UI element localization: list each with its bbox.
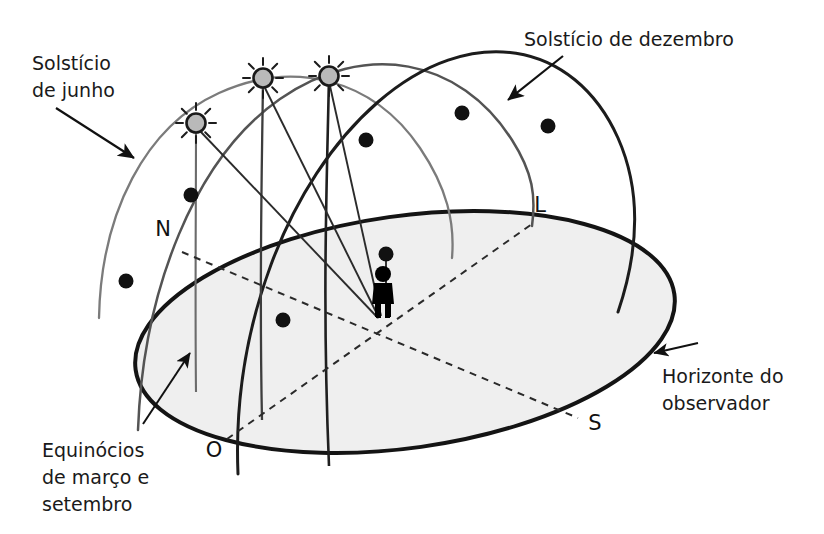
label-horizon: Horizonte do observador xyxy=(662,365,784,414)
marker-dot xyxy=(276,313,291,328)
marker-dot xyxy=(184,188,199,203)
observer-head xyxy=(375,266,391,282)
label-horizon-line1: Horizonte do xyxy=(662,365,784,387)
marker-dot xyxy=(119,274,134,289)
label-solstice-december: Solstício de dezembro xyxy=(524,28,734,50)
sun-equinox-group xyxy=(243,58,283,98)
cardinal-label-west: O xyxy=(206,438,223,462)
label-solstice-june-line2: de junho xyxy=(32,79,115,101)
marker-dot xyxy=(455,106,470,121)
sun-june-group xyxy=(176,103,216,143)
label-equinoxes-line1: Equinócios xyxy=(42,439,144,461)
diagram-canvas: N L O S Solstício de junho Solstício de … xyxy=(0,0,824,534)
label-equinoxes-line3: setembro xyxy=(42,493,132,515)
observer-left-leg xyxy=(376,304,381,318)
label-solstice-june: Solstício de junho xyxy=(32,52,115,101)
label-solstice-june-line1: Solstício xyxy=(32,52,111,74)
sun-icon xyxy=(176,103,216,143)
marker-dot xyxy=(379,247,394,262)
cardinal-label-east: L xyxy=(534,193,546,217)
label-solstice-december-line1: Solstício de dezembro xyxy=(524,28,734,50)
label-equinoxes-line2: de março e xyxy=(42,466,149,488)
sun-icon xyxy=(243,58,283,98)
sun-icon xyxy=(309,56,349,96)
solstice-june-leader-line xyxy=(56,108,134,158)
marker-dot xyxy=(541,119,556,134)
solstice-december-leader-line xyxy=(508,56,563,100)
sun-december-group xyxy=(309,56,349,96)
observer-right-leg xyxy=(385,304,390,318)
label-equinoxes: Equinócios de março e setembro xyxy=(42,439,149,515)
celestial-sphere-diagram: N L O S Solstício de junho Solstício de … xyxy=(0,0,824,534)
label-horizon-line2: observador xyxy=(662,392,770,414)
cardinal-label-north: N xyxy=(155,217,171,241)
marker-dot xyxy=(359,133,374,148)
horizon-leader-line xyxy=(654,343,698,353)
cardinal-label-south: S xyxy=(588,411,601,435)
